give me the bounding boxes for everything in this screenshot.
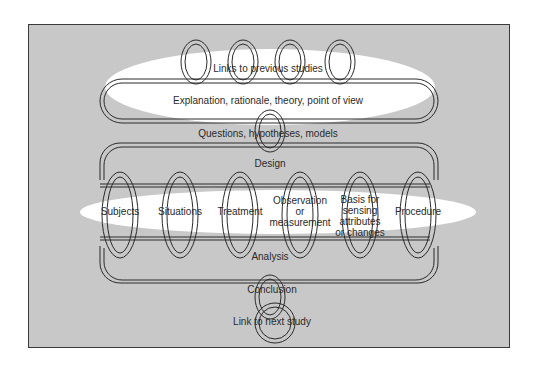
label-analysis: Analysis <box>251 251 288 262</box>
label-questions: Questions, hypotheses, models <box>198 128 338 139</box>
label-subjects: Subjects <box>101 206 139 217</box>
conclusion-ring <box>255 275 285 319</box>
label-treatment: Treatment <box>217 206 262 217</box>
label-procedure: Procedure <box>395 206 441 217</box>
basis-line-1: Basis for <box>335 194 384 205</box>
obs-line-1: Observation <box>269 195 330 206</box>
label-next-study: Link to next study <box>233 316 311 327</box>
obs-line-3: measurement <box>269 217 330 228</box>
basis-line-2: sensing <box>335 205 384 216</box>
research-chain-diagram <box>0 0 537 367</box>
label-observation: Observation or measurement <box>269 195 330 228</box>
obs-line-2: or <box>269 206 330 217</box>
basis-line-4: or changes <box>335 227 384 238</box>
label-links-previous: Links to previous studies <box>213 63 323 74</box>
label-situations: Situations <box>158 206 202 217</box>
basis-line-3: attributes <box>335 216 384 227</box>
label-design: Design <box>254 158 285 169</box>
label-explanation: Explanation, rationale, theory, point of… <box>173 95 363 106</box>
label-basis: Basis for sensing attributes or changes <box>335 194 384 238</box>
label-conclusion: Conclusion <box>247 284 296 295</box>
